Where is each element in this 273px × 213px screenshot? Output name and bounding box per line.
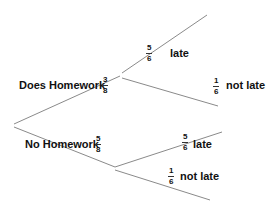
denominator: 8	[96, 145, 100, 154]
numerator: 5	[95, 135, 101, 145]
numerator: 1	[168, 167, 174, 177]
label-does-homework: Does Homework	[19, 80, 105, 91]
prob-nohw-not-late: 1 6	[168, 167, 174, 186]
prob-hw-not-late: 1 6	[213, 77, 219, 96]
label-hw-not-late: not late	[226, 80, 265, 91]
denominator: 6	[183, 143, 187, 152]
denominator: 8	[103, 86, 107, 95]
prob-hw-late: 5 6	[146, 44, 152, 63]
numerator: 1	[213, 77, 219, 87]
tree-branches	[0, 0, 273, 213]
denominator: 6	[169, 177, 173, 186]
branch-hw-late	[122, 15, 207, 73]
denominator: 6	[147, 54, 151, 63]
prob-no-homework: 5 8	[95, 135, 101, 154]
denominator: 6	[214, 87, 218, 96]
numerator: 5	[182, 133, 188, 143]
label-no-homework: No Homework	[25, 139, 99, 150]
label-hw-late: late	[170, 48, 189, 59]
prob-does-homework: 3 8	[102, 76, 108, 95]
branch-hw-not-late	[122, 78, 218, 106]
prob-nohw-late: 5 6	[182, 133, 188, 152]
label-nohw-not-late: not late	[180, 171, 219, 182]
numerator: 3	[102, 76, 108, 86]
label-nohw-late: late	[193, 139, 212, 150]
numerator: 5	[146, 44, 152, 54]
